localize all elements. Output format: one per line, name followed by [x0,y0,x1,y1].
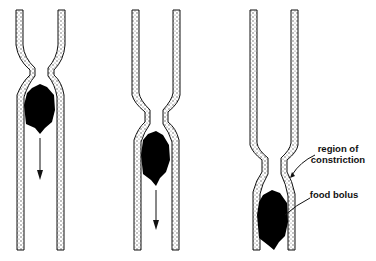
stage-2-arrow-down-icon [153,190,159,230]
stage-1-tube [16,10,65,250]
constriction-label-line1: region of [303,143,373,154]
stage-1-arrow-down-icon [37,138,43,180]
stage-1-right-wall [48,10,65,250]
stage-1-left-wall [16,10,35,250]
constriction-label: region of constriction [303,143,373,165]
stage-3-tube [250,10,315,250]
stage-1-food-bolus [24,84,55,134]
bolus-label: food bolus [303,189,365,200]
peristalsis-diagram [0,0,376,261]
stage-2-tube [132,10,180,250]
stage-2-left-wall [132,10,150,250]
stage-2-right-wall [163,10,180,250]
stage-3-food-bolus [257,190,288,250]
stage-2-food-bolus [141,131,170,186]
constriction-label-line2: constriction [303,154,373,165]
